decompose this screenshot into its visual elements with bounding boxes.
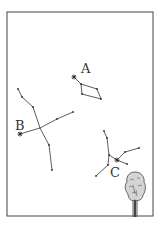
constellation-diagram: A B C	[0, 0, 163, 231]
star-icon-c	[115, 158, 120, 163]
label-a: A	[80, 61, 91, 76]
star-icon-a	[72, 75, 77, 80]
label-b: B	[15, 118, 25, 133]
star-icon-b	[18, 132, 23, 137]
label-c: C	[110, 165, 120, 180]
